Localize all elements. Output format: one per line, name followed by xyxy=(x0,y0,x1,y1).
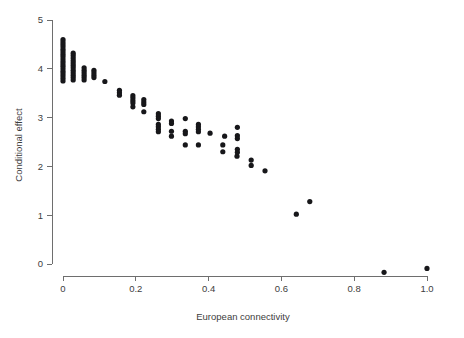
plot-background xyxy=(0,0,464,338)
y-tick-label: 2 xyxy=(38,161,43,172)
data-point xyxy=(169,121,174,126)
data-point xyxy=(235,136,240,141)
data-point xyxy=(235,125,240,130)
data-point xyxy=(220,149,225,154)
y-tick-label: 1 xyxy=(38,210,43,221)
data-point xyxy=(130,104,135,109)
y-tick-label: 4 xyxy=(38,63,43,74)
x-tick-label: 1.0 xyxy=(420,283,433,294)
data-point xyxy=(183,116,188,121)
data-point xyxy=(381,270,386,275)
data-point xyxy=(82,77,87,82)
x-axis-title: European connectivity xyxy=(196,311,290,322)
data-point xyxy=(262,168,267,173)
data-point xyxy=(249,157,254,162)
data-point xyxy=(156,129,161,134)
data-point xyxy=(424,266,429,271)
x-tick-label: 0 xyxy=(60,283,65,294)
data-point xyxy=(207,131,212,136)
data-point xyxy=(196,142,201,147)
data-point xyxy=(156,116,161,121)
data-point xyxy=(169,134,174,139)
data-point xyxy=(220,142,225,147)
scatter-plot-figure: 012345 00.20.40.60.81.0 European connect… xyxy=(0,0,464,338)
x-tick-label: 0.6 xyxy=(275,283,288,294)
x-tick-label: 0.4 xyxy=(202,283,215,294)
data-point xyxy=(307,199,312,204)
x-tick-label: 0.2 xyxy=(129,283,142,294)
data-point xyxy=(141,109,146,114)
data-point xyxy=(169,129,174,134)
data-point xyxy=(141,102,146,107)
y-tick-label: 5 xyxy=(38,14,43,25)
data-point xyxy=(71,77,76,82)
y-axis-title: Conditional effect xyxy=(13,108,24,182)
data-point xyxy=(117,93,122,98)
data-point xyxy=(91,75,96,80)
data-point xyxy=(235,150,240,155)
data-point xyxy=(60,78,65,83)
data-point xyxy=(249,163,254,168)
y-tick-label: 3 xyxy=(38,112,43,123)
data-point xyxy=(183,131,188,136)
data-point xyxy=(196,129,201,134)
data-point xyxy=(183,142,188,147)
data-point xyxy=(102,79,107,84)
x-tick-label: 0.8 xyxy=(348,283,361,294)
y-tick-label: 0 xyxy=(38,258,43,269)
data-point xyxy=(222,134,227,139)
data-point xyxy=(294,212,299,217)
